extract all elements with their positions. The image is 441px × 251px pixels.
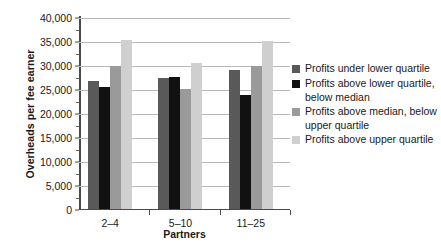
y-axis-tick-label: 15,000 (2, 132, 79, 144)
y-axis-tick-label: 10,000 (2, 156, 79, 168)
bar (110, 66, 121, 209)
bar (262, 41, 273, 209)
bar (251, 66, 262, 209)
x-axis-title: Partners (79, 228, 290, 240)
bar (229, 70, 240, 208)
y-axis-tick-mark (75, 209, 79, 210)
plot-area: 05,00010,00015,00020,00025,00030,00035,0… (79, 16, 290, 210)
x-axis-tick-mark (220, 210, 221, 215)
bar (240, 95, 251, 208)
bar-group (220, 17, 290, 209)
bar (180, 89, 191, 209)
y-axis-tick-label: 0 (2, 204, 79, 216)
legend-label-continuation: upper quartile (292, 119, 441, 133)
legend-item[interactable]: Profits above upper quartile (292, 133, 441, 147)
y-axis-tick-label: 30,000 (2, 60, 79, 72)
legend-label: Profits above median, below (305, 105, 437, 119)
y-axis-tick-label: 20,000 (2, 108, 79, 120)
legend: Profits under lower quartileProfits abov… (292, 62, 441, 147)
bar-group (149, 17, 219, 209)
bar (88, 81, 99, 209)
x-axis-line (79, 209, 290, 211)
x-axis-tick-mark (290, 210, 291, 215)
legend-swatch-icon (292, 108, 300, 116)
legend-swatch-icon (292, 80, 300, 88)
legend-label: Profits under lower quartile (305, 62, 430, 76)
legend-item[interactable]: Profits under lower quartile (292, 62, 441, 76)
legend-label-continuation: below median (292, 91, 441, 105)
y-axis-tick-label: 35,000 (2, 36, 79, 48)
bar-group (79, 17, 149, 209)
legend-label: Profits above upper quartile (305, 133, 433, 147)
y-axis-tick-label: 25,000 (2, 84, 79, 96)
bar (121, 40, 132, 209)
legend-swatch-icon (292, 65, 300, 73)
bar-chart-figure: Overheads per fee earner 05,00010,00015,… (0, 0, 441, 251)
bar (191, 63, 202, 209)
bar (158, 78, 169, 209)
bar (99, 87, 110, 209)
legend-label: Profits above lower quartile, (305, 77, 435, 91)
bar (169, 77, 180, 208)
legend-item[interactable]: Profits above lower quartile, (292, 77, 441, 91)
y-axis-tick-label: 5,000 (2, 180, 79, 192)
legend-item[interactable]: Profits above median, below (292, 105, 441, 119)
x-axis-tick-mark (149, 210, 150, 215)
y-axis-tick-label: 40,000 (2, 12, 79, 24)
legend-swatch-icon (292, 136, 300, 144)
